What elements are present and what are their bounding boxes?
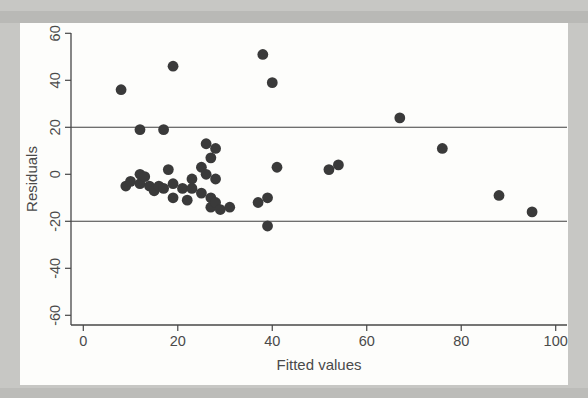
scatter-point [333, 160, 344, 171]
scatter-point [324, 164, 335, 175]
scatter-point [272, 162, 283, 173]
scatter-point [187, 183, 198, 194]
scatter-point [224, 202, 235, 213]
plot-elements: 6040200-20-40-60020406080100 [47, 25, 568, 349]
x-axis-title: Fitted values [276, 356, 361, 373]
scatter-point [494, 190, 505, 201]
x-tick-label: 80 [453, 333, 469, 349]
scatter-point [262, 221, 273, 232]
scatter-point [125, 176, 136, 187]
scatter-point [139, 171, 150, 182]
scatter-point [201, 138, 212, 149]
y-axis-title: Residuals [23, 146, 40, 212]
scatter-point [210, 143, 221, 154]
y-tick-label: 60 [47, 25, 63, 41]
y-tick-label: -60 [47, 305, 63, 326]
residuals-vs-fitted-scatter-plot: 6040200-20-40-60020406080100 Residuals F… [20, 23, 568, 385]
x-tick-label: 60 [359, 333, 375, 349]
scan-edge-bottom [0, 388, 588, 398]
x-tick-label: 0 [79, 333, 87, 349]
scan-shadow-top [0, 11, 588, 23]
scatter-point [201, 169, 212, 180]
x-tick-label: 20 [170, 333, 186, 349]
scatter-point [215, 204, 226, 215]
scatter-point [116, 84, 127, 95]
scatter-point [394, 113, 405, 124]
y-tick-label: -40 [47, 258, 63, 279]
y-tick-label: 0 [47, 170, 63, 178]
x-tick-label: 40 [264, 333, 280, 349]
y-tick-label: 40 [47, 72, 63, 88]
scatter-point [177, 183, 188, 194]
scatter-point [262, 192, 273, 203]
scanned-page: 6040200-20-40-60020406080100 Residuals F… [0, 0, 588, 398]
scatter-point [257, 49, 268, 60]
scatter-point [437, 143, 448, 154]
x-tick-label: 100 [544, 333, 568, 349]
scatter-point [267, 77, 278, 88]
scatter-point [210, 174, 221, 185]
scatter-point [253, 197, 264, 208]
scatter-point [163, 164, 174, 175]
scatter-point [168, 178, 179, 189]
figure-area: 6040200-20-40-60020406080100 Residuals F… [20, 23, 568, 385]
scatter-point [168, 61, 179, 72]
scatter-point [205, 152, 216, 163]
scatter-point [158, 124, 169, 135]
y-tick-label: 20 [47, 119, 63, 135]
scatter-point [527, 207, 538, 218]
scatter-point [158, 183, 169, 194]
scatter-point [135, 124, 146, 135]
scatter-point [182, 195, 193, 206]
scatter-point [196, 188, 207, 199]
scatter-point [187, 174, 198, 185]
y-tick-label: -20 [47, 211, 63, 232]
scatter-point [168, 192, 179, 203]
